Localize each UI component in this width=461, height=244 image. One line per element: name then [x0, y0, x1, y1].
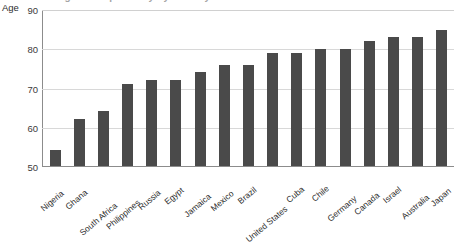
x-label-slot: Philippines [116, 169, 140, 222]
x-axis-tick-label-text: Ghana [64, 187, 90, 211]
x-axis-tick-label-text: Israel [381, 184, 403, 205]
y-tick-label-60: 60 [27, 122, 38, 133]
x-axis-tick-label-text: Japan [429, 186, 453, 209]
bar[interactable] [74, 119, 85, 166]
x-label-slot: United States [261, 169, 285, 222]
x-label-slot: Canada [358, 169, 382, 222]
bar[interactable] [243, 65, 254, 166]
bar-slot [212, 10, 236, 166]
bar-slot [140, 10, 164, 166]
bar-slot [381, 10, 405, 166]
bar[interactable] [146, 80, 157, 166]
bar[interactable] [195, 72, 206, 166]
bar[interactable] [388, 37, 399, 166]
bar-slot [333, 10, 357, 166]
bar-slot [43, 10, 67, 166]
x-label-slot: Russia [140, 169, 164, 222]
x-label-slot: Cuba [285, 169, 309, 222]
y-tick-label-70: 70 [27, 83, 38, 94]
x-axis-tick-label: Japan [446, 171, 461, 194]
y-axis-title: Age [2, 2, 19, 13]
bar-slot [116, 10, 140, 166]
x-label-slot: Mexico [213, 169, 237, 222]
bar-slot [430, 10, 454, 166]
x-axis-tick-label-text: Egypt [163, 185, 186, 207]
bar[interactable] [267, 53, 278, 166]
x-label-slot: Germany [334, 169, 358, 222]
x-axis-tick-label-text: Brazil [236, 185, 259, 206]
bar-series [43, 10, 454, 166]
x-label-slot: Brazil [237, 169, 261, 222]
bar-slot [188, 10, 212, 166]
y-tick-label-50: 50 [27, 162, 38, 173]
bar-slot [309, 10, 333, 166]
x-axis-tick-label-text: Russia [136, 188, 162, 212]
x-axis-tick-label-text: Nigeria [39, 188, 66, 213]
bar[interactable] [98, 111, 109, 166]
bar[interactable] [340, 49, 351, 166]
bar-slot [285, 10, 309, 166]
bar[interactable] [219, 65, 230, 166]
bar-slot [67, 10, 91, 166]
bar[interactable] [291, 53, 302, 166]
bar[interactable] [122, 84, 133, 166]
chart-title: Average life expectancy by country [36, 0, 210, 2]
x-axis-tick-label-text: Mexico [208, 188, 235, 213]
x-label-slot: Ghana [67, 169, 91, 222]
bar-slot [261, 10, 285, 166]
y-tick-label-80: 80 [27, 44, 38, 55]
x-axis-tick-label-text: Cuba [285, 184, 307, 205]
x-label-slot: Australia [407, 169, 431, 222]
bar[interactable] [315, 49, 326, 166]
x-label-slot: Jamaica [188, 169, 212, 222]
bar[interactable] [364, 41, 375, 166]
bar-slot [357, 10, 381, 166]
x-label-slot: Japan [431, 169, 455, 222]
x-axis-labels: NigeriaGhanaSouth AfricaPhilippinesRussi… [43, 169, 455, 222]
bar[interactable] [50, 150, 61, 166]
x-axis-tick-label-text: Chile [309, 183, 330, 203]
x-label-slot: Nigeria [43, 169, 67, 222]
bar[interactable] [170, 80, 181, 166]
bar-slot [164, 10, 188, 166]
bar-slot [91, 10, 115, 166]
x-label-slot: South Africa [91, 169, 115, 222]
bar-slot [236, 10, 260, 166]
plot-area: 5060708090 [42, 10, 454, 167]
x-axis-line [42, 166, 454, 167]
bar[interactable] [412, 37, 423, 166]
y-tick-label-90: 90 [27, 5, 38, 16]
bar-slot [406, 10, 430, 166]
bar[interactable] [436, 30, 447, 167]
